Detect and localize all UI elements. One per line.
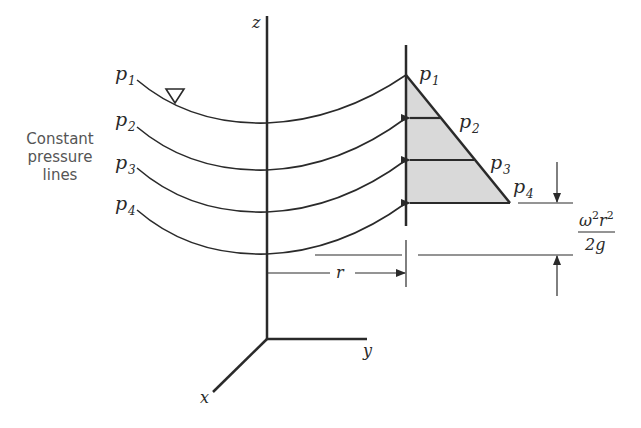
x-axis-label: x [200,388,209,407]
left-label-p4: p 4 [115,192,136,218]
pressure-curve-p4 [137,203,406,254]
svg-text:lines: lines [43,166,78,184]
svg-text:pressure: pressure [28,148,93,166]
svg-text:2g: 2g [584,235,605,254]
svg-text:3: 3 [503,163,511,177]
pressure-curve-p2 [137,118,406,170]
left-label-p2: p 2 [115,108,136,134]
svg-text:p: p [115,192,127,214]
svg-text:p: p [513,175,525,197]
svg-text:p: p [115,108,127,130]
z-axis-label: z [251,13,261,32]
svg-text:p: p [419,62,431,84]
svg-text:1: 1 [432,74,440,88]
constant-pressure-lines-label: Constant pressure lines [26,130,94,184]
right-label-p4: p 4 [513,175,534,201]
svg-text:p: p [459,110,471,132]
radius-label: r [336,263,345,282]
svg-text:4: 4 [127,204,136,218]
left-label-p3: p 3 [115,151,136,177]
height-formula: ω2r2 2g [578,209,615,254]
svg-text:p: p [490,151,502,173]
y-axis-label: y [362,341,373,360]
left-label-p1: p 1 [115,62,136,88]
pressure-curve-p3 [137,160,406,212]
diagram-canvas: z y x r p 1 p 2 p 3 p 4 p 1 p 2 p 3 p 4 … [0,0,641,428]
svg-text:p: p [115,62,127,84]
svg-text:4: 4 [525,187,534,201]
right-label-p1: p 1 [419,62,440,88]
right-label-p2: p 2 [459,110,480,136]
svg-text:1: 1 [128,74,136,88]
svg-text:ω2r2: ω2r2 [579,209,614,230]
x-axis [213,339,267,392]
svg-text:3: 3 [128,163,136,177]
svg-text:Constant: Constant [26,130,94,148]
right-label-p3: p 3 [490,151,511,177]
svg-text:2: 2 [127,120,136,134]
svg-text:2: 2 [471,122,480,136]
svg-text:p: p [115,151,127,173]
